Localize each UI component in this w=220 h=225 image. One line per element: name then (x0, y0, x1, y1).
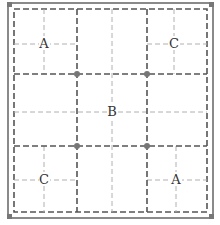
corner-marker-top-left (7, 2, 12, 7)
label-center: B (107, 104, 117, 119)
label-bottom-right: A (170, 172, 181, 187)
label-top-left: A (38, 36, 49, 51)
corner-marker-bottom-right (209, 214, 214, 219)
grid-diagram: A C B C A (0, 0, 220, 225)
corner-marker-bottom-left (7, 214, 12, 219)
label-top-right: C (169, 36, 179, 51)
label-bottom-left: C (39, 172, 49, 187)
corner-marker-top-right (209, 2, 214, 7)
